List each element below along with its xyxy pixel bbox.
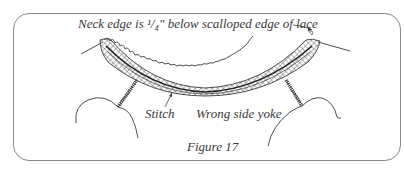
figure-17: Neck edge is ¹/₄" below scalloped edge o… xyxy=(0,0,404,171)
stitch-label: Stitch xyxy=(145,106,175,122)
wrong-side-yoke-label: Wrong side yoke xyxy=(196,106,281,122)
neck-edge-label: Neck edge is ¹/₄" below scalloped edge o… xyxy=(78,16,318,32)
figure-caption: Figure 17 xyxy=(187,139,238,155)
